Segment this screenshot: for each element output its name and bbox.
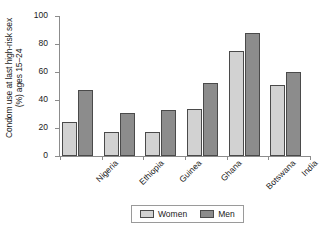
legend-swatch-men [200,210,214,218]
y-axis-tick-label: 60 [39,66,48,76]
bar-group [268,16,310,156]
y-axis-tick-label: 80 [39,38,48,48]
y-axis-tick-label: 0 [43,150,48,160]
bar-ghana-women [187,109,202,156]
chart-legend: WomenMen [131,205,244,223]
bar-botswana-women [229,51,244,156]
y-axis-title-line-2: (%) ages 15–24 [14,49,24,108]
legend-entry-women: Women [140,209,187,219]
y-axis-title: Condom use at last high-risk sex (%) age… [4,0,46,158]
bar-nigeria-women [62,122,77,156]
bar-group [143,16,185,156]
bar-group [60,16,102,156]
bar-group [102,16,144,156]
y-axis-title-line-1: Condom use at last high-risk sex [4,18,14,138]
legend-label-men: Men [218,209,235,219]
x-axis-category-labels: NigeriaEthiopiaGuineaGhanaBotswanaIndia [60,158,310,204]
bars-layer [60,16,310,156]
x-axis-label-india: India [299,158,319,178]
y-axis-tick-label: 20 [39,122,48,132]
x-axis-label-ethiopia: Ethiopia [137,158,166,187]
legend-label-women: Women [158,209,187,219]
bar-nigeria-men [78,90,93,156]
bar-chart-figure: Condom use at last high-risk sex (%) age… [0,0,335,234]
bar-guinea-men [161,110,176,156]
bar-group [227,16,269,156]
x-axis-label-ghana: Ghana [218,158,243,183]
y-axis-tick-label: 40 [39,94,48,104]
bar-ghana-men [203,83,218,157]
bar-botswana-men [245,33,260,156]
legend-entry-men: Men [200,209,235,219]
x-axis-label-nigeria: Nigeria [94,158,120,184]
bar-ethiopia-women [104,132,119,157]
plot-area: 020406080100 [60,16,310,156]
bar-ethiopia-men [120,113,135,156]
bar-group [185,16,227,156]
bar-india-men [286,72,301,156]
x-axis-label-botswana: Botswana [264,158,297,191]
x-axis-label-guinea: Guinea [177,158,203,184]
legend-swatch-women [140,210,154,218]
bar-guinea-women [145,132,160,157]
bar-india-women [270,85,285,156]
y-axis-tick-label: 100 [34,10,48,20]
